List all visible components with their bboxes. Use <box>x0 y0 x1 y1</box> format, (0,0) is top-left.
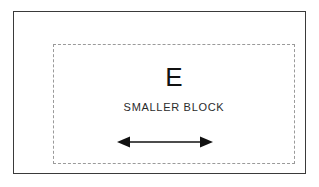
arrow-head-left <box>117 136 130 147</box>
diagram-canvas: E SMALLER BLOCK <box>0 0 319 187</box>
larger-block-outline: E SMALLER BLOCK <box>13 11 306 174</box>
arrow-head-right <box>200 136 213 147</box>
double-headed-arrow-svg <box>114 130 216 154</box>
double-headed-arrow-icon <box>114 130 216 154</box>
block-caption-label: SMALLER BLOCK <box>53 100 295 114</box>
block-letter-label: E <box>53 62 295 92</box>
